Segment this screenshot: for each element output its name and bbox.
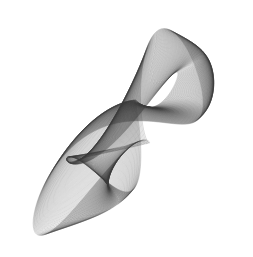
line-art-canvas [0, 0, 253, 257]
harmonograph-figure [0, 0, 253, 257]
